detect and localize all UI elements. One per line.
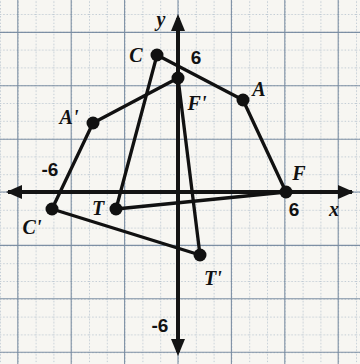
label-point-A: A <box>250 78 265 100</box>
y-axis-name: y <box>155 8 166 31</box>
point-C <box>151 49 164 62</box>
plot-canvas: C A F T F' A' C' T' 6 -6 6 -6 x y <box>0 0 360 364</box>
label-point-F: F <box>291 162 306 184</box>
point-T <box>110 203 123 216</box>
point-A <box>237 94 250 107</box>
point-F <box>280 186 293 199</box>
label-point-C-prime: C' <box>23 216 42 238</box>
point-A-prime <box>87 117 100 130</box>
label-point-T-prime: T' <box>204 267 222 289</box>
point-C-prime <box>46 203 59 216</box>
label-point-F-prime: F' <box>187 92 207 114</box>
label-point-C: C <box>129 44 143 66</box>
point-T-prime <box>194 249 207 262</box>
x-positive-tick-label: 6 <box>289 199 300 220</box>
coordinate-plane-figure: C A F T F' A' C' T' 6 -6 6 -6 x y <box>0 0 360 364</box>
label-point-T: T <box>92 197 105 219</box>
label-point-A-prime: A' <box>58 106 79 128</box>
y-positive-tick-label: 6 <box>191 47 202 68</box>
x-negative-tick-label: -6 <box>42 159 59 180</box>
y-negative-tick-label: -6 <box>152 315 169 336</box>
point-F-prime <box>172 72 185 85</box>
x-axis-name: x <box>328 198 339 220</box>
